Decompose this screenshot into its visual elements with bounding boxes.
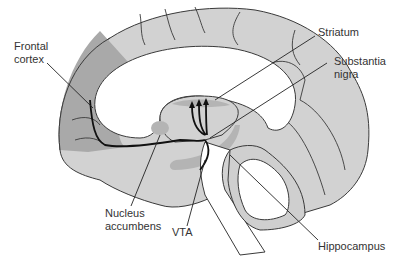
nucleus-accumbens-region — [151, 121, 169, 135]
label-line: cortex — [14, 53, 48, 66]
label-line: nigra — [334, 68, 386, 81]
label-line: Nucleus — [105, 207, 161, 220]
label-hippocampus: Hippocampus — [318, 240, 385, 253]
label-substantia-nigra: Substantia nigra — [334, 55, 386, 81]
label-nucleus-accumbens: Nucleus accumbens — [105, 207, 161, 233]
label-line: accumbens — [105, 220, 161, 233]
label-line: VTA — [172, 226, 193, 239]
label-line: Frontal — [14, 40, 48, 53]
label-frontal-cortex: Frontal cortex — [14, 40, 48, 66]
label-line: Substantia — [334, 55, 386, 68]
brain-diagram — [0, 0, 398, 271]
label-line: Striatum — [318, 26, 359, 39]
label-vta: VTA — [172, 226, 193, 239]
label-striatum: Striatum — [318, 26, 359, 39]
label-line: Hippocampus — [318, 240, 385, 253]
